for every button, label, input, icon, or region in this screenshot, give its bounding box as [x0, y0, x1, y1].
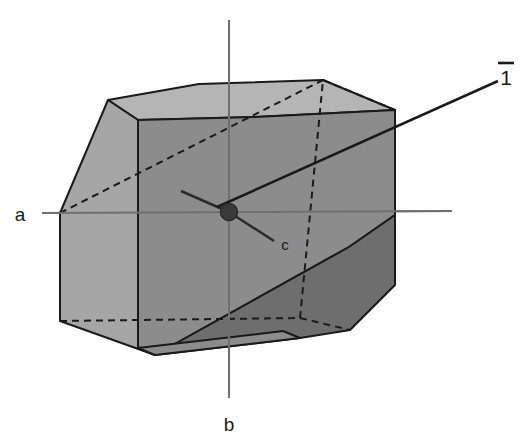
axis-c-label: c [281, 236, 289, 253]
crystal-diagram-svg: a b c 1 [0, 0, 529, 441]
inversion-symbol-group: 1 [498, 63, 514, 89]
crystal-figure: a b c 1 [0, 0, 529, 441]
axis-a-label: a [15, 204, 26, 225]
axis-b-label: b [224, 414, 235, 435]
inversion-centre-dot [221, 204, 238, 221]
inversion-symbol-label: 1 [500, 66, 512, 89]
